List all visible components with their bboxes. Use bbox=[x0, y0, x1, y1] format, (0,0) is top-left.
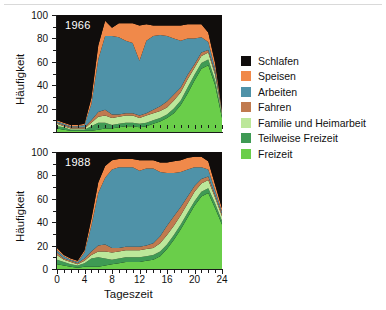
x-tick-22 bbox=[208, 270, 209, 273]
x-tick-18 bbox=[181, 270, 182, 273]
x-tick-7 bbox=[105, 125, 106, 128]
y-minor-tick bbox=[53, 50, 56, 51]
y-tick-label-100: 100 bbox=[22, 147, 48, 158]
legend-label: Familie und Heimarbeit bbox=[258, 117, 366, 129]
y-minor-tick bbox=[53, 257, 56, 258]
legend-label: Teilweise Freizeit bbox=[258, 132, 338, 144]
x-axis-line-1966 bbox=[56, 132, 223, 133]
y-axis-line-1966 bbox=[56, 15, 57, 133]
legend-swatch-icon bbox=[241, 149, 251, 159]
legend-item-4[interactable]: Familie und Heimarbeit bbox=[241, 115, 383, 130]
y-tick-20 bbox=[52, 246, 56, 247]
legend-item-0[interactable]: Schlafen bbox=[241, 53, 383, 68]
x-tick-5 bbox=[91, 270, 92, 273]
legend-swatch-icon bbox=[241, 71, 251, 81]
x-tick-5 bbox=[91, 125, 92, 128]
y-tick-60 bbox=[52, 199, 56, 200]
y-minor-tick bbox=[53, 97, 56, 98]
x-tick-24 bbox=[222, 125, 223, 129]
legend-label: Fahren bbox=[258, 101, 291, 113]
legend-item-2[interactable]: Arbeiten bbox=[241, 84, 383, 99]
legend-swatch-icon bbox=[241, 133, 251, 143]
y-axis-line-1988 bbox=[56, 152, 57, 270]
x-tick-14 bbox=[153, 125, 154, 128]
legend-label: Speisen bbox=[258, 70, 296, 82]
x-tick-7 bbox=[105, 270, 106, 273]
legend-item-6[interactable]: Freizeit bbox=[241, 146, 383, 161]
x-tick-4 bbox=[85, 125, 86, 129]
plot-panel-1966 bbox=[57, 15, 222, 132]
x-tick-20 bbox=[195, 125, 196, 129]
legend-label: Schlafen bbox=[258, 55, 299, 67]
x-tick-label-20: 20 bbox=[184, 274, 206, 285]
x-tick-11 bbox=[133, 125, 134, 128]
x-tick-19 bbox=[188, 125, 189, 128]
stacked-area-svg-1988 bbox=[57, 152, 222, 269]
x-tick-3 bbox=[78, 125, 79, 128]
x-tick-6 bbox=[98, 270, 99, 273]
x-tick-13 bbox=[146, 125, 147, 128]
y-tick-label-100: 100 bbox=[22, 10, 48, 21]
x-tick-6 bbox=[98, 125, 99, 128]
y-minor-tick bbox=[53, 120, 56, 121]
x-tick-21 bbox=[201, 125, 202, 128]
x-tick-label-24: 24 bbox=[211, 274, 233, 285]
legend-swatch-icon bbox=[241, 102, 251, 112]
y-tick-80 bbox=[52, 175, 56, 176]
x-tick-9 bbox=[119, 125, 120, 128]
x-tick-9 bbox=[119, 270, 120, 273]
x-tick-2 bbox=[71, 270, 72, 273]
x-tick-21 bbox=[201, 270, 202, 273]
x-tick-10 bbox=[126, 125, 127, 128]
y-minor-tick bbox=[53, 187, 56, 188]
y-minor-tick bbox=[53, 74, 56, 75]
legend-item-3[interactable]: Fahren bbox=[241, 100, 383, 115]
y-tick-60 bbox=[52, 62, 56, 63]
y-minor-tick bbox=[53, 234, 56, 235]
plot-panel-1988 bbox=[57, 152, 222, 269]
figure-stacked-area-tagesablauf: 1966 20406080100 Häufigkeit 1988 0204060… bbox=[0, 0, 386, 310]
legend-swatch-icon bbox=[241, 118, 251, 128]
x-tick-1 bbox=[64, 125, 65, 128]
x-tick-16 bbox=[167, 125, 168, 129]
x-tick-label-16: 16 bbox=[156, 274, 178, 285]
x-tick-label-12: 12 bbox=[129, 274, 151, 285]
y-minor-tick bbox=[53, 164, 56, 165]
legend-label: Freizeit bbox=[258, 148, 292, 160]
y-tick-100 bbox=[52, 152, 56, 153]
y-tick-label-80: 80 bbox=[22, 33, 48, 44]
y-minor-tick bbox=[53, 211, 56, 212]
x-tick-13 bbox=[146, 270, 147, 273]
y-axis-title-1988: Häufigkeit bbox=[14, 191, 26, 242]
y-tick-label-80: 80 bbox=[22, 170, 48, 181]
y-tick-20 bbox=[52, 109, 56, 110]
x-tick-11 bbox=[133, 270, 134, 273]
x-tick-0 bbox=[57, 125, 58, 129]
x-tick-17 bbox=[174, 125, 175, 128]
x-tick-3 bbox=[78, 270, 79, 273]
y-tick-0 bbox=[52, 269, 56, 270]
x-tick-12 bbox=[140, 125, 141, 129]
x-tick-label-8: 8 bbox=[101, 274, 123, 285]
x-tick-23 bbox=[215, 125, 216, 128]
x-tick-17 bbox=[174, 270, 175, 273]
x-tick-2 bbox=[71, 125, 72, 128]
x-tick-15 bbox=[160, 125, 161, 128]
x-tick-14 bbox=[153, 270, 154, 273]
y-tick-label-0: 0 bbox=[22, 264, 48, 275]
x-tick-8 bbox=[112, 125, 113, 129]
top-rule-divider bbox=[4, 4, 382, 5]
x-axis-title: Tageszeit bbox=[104, 288, 153, 300]
y-tick-80 bbox=[52, 38, 56, 39]
legend-label: Arbeiten bbox=[258, 86, 297, 98]
stacked-area-svg-1966 bbox=[57, 15, 222, 132]
y-axis-title-1966: Häufigkeit bbox=[14, 54, 26, 105]
x-tick-10 bbox=[126, 270, 127, 273]
legend-swatch-icon bbox=[241, 87, 251, 97]
legend: SchlafenSpeisenArbeitenFahrenFamilie und… bbox=[241, 53, 383, 162]
legend-item-1[interactable]: Speisen bbox=[241, 69, 383, 84]
legend-item-5[interactable]: Teilweise Freizeit bbox=[241, 131, 383, 146]
y-tick-40 bbox=[52, 222, 56, 223]
x-tick-1 bbox=[64, 270, 65, 273]
y-minor-tick bbox=[53, 27, 56, 28]
